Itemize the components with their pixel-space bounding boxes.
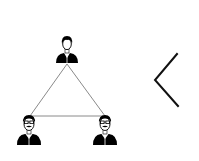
network-diagram bbox=[0, 0, 199, 161]
